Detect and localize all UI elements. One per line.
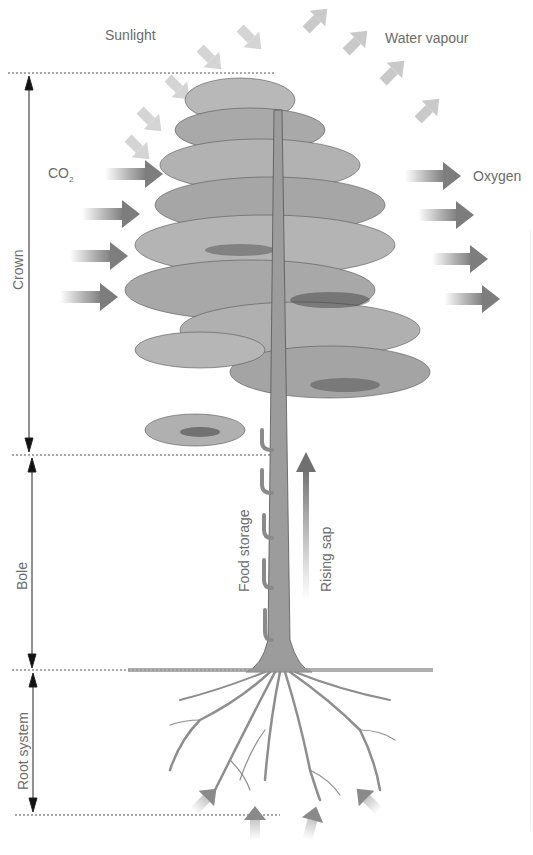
edge-line [530,230,531,830]
co2-subscript: 2 [69,175,73,184]
root-system-label: Root system [15,712,31,790]
water-vapour-label: Water vapour [385,30,469,46]
crown-label: Crown [10,250,26,290]
oxygen-label: Oxygen [473,168,521,184]
bole-label: Bole [14,562,30,590]
water-vapour-arrows [298,1,447,128]
co2-text: CO [48,165,69,181]
co2-label: CO2 [48,165,73,184]
dimension-arrows [25,76,37,812]
tree-diagram: Sunlight Water vapour CO2 Oxygen Crown B… [0,0,533,855]
rising-sap-label: Rising sap [318,527,334,592]
root-system [170,672,395,800]
rising-sap-arrow [296,452,316,600]
oxygen-arrows [405,162,500,313]
sunlight-label: Sunlight [105,27,156,43]
root-water-arrows [186,781,387,842]
food-storage-label: Food storage [236,510,252,593]
diagram-graphics [0,0,533,855]
